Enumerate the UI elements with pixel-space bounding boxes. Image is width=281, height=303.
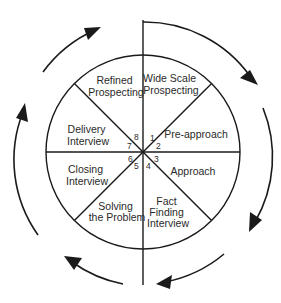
segment-8-label: Refined Prospecting xyxy=(88,74,144,98)
arrowhead-icon xyxy=(156,275,172,289)
arrowhead-icon xyxy=(64,256,82,270)
sales-cycle-diagram: Wide Scale Prospecting Pre-approach Appr… xyxy=(0,0,281,303)
arrowhead-icon xyxy=(249,212,262,232)
segment-7-label: Delivery Interview xyxy=(67,123,109,147)
segment-4-number: 4 xyxy=(146,161,151,171)
segment-4-label: Fact Finding Interview xyxy=(147,195,189,229)
segment-7-number: 7 xyxy=(127,141,132,151)
segment-1-number: 1 xyxy=(150,133,155,143)
arrowhead-icon xyxy=(16,103,28,122)
arrow-top-left xyxy=(43,27,101,72)
segment-5-number: 5 xyxy=(134,161,139,171)
segment-5-label: Solving the Problem xyxy=(89,200,146,223)
arrow-right xyxy=(249,108,273,232)
segment-8-number: 8 xyxy=(134,132,139,142)
segment-3-label: Approach xyxy=(171,165,216,177)
segment-2-number: 2 xyxy=(156,141,161,151)
arrow-left xyxy=(14,103,38,235)
segment-6-label: Closing Interview xyxy=(66,163,108,187)
segment-6-number: 6 xyxy=(128,154,133,164)
arrowhead-icon xyxy=(84,27,101,40)
wheel-svg: Wide Scale Prospecting Pre-approach Appr… xyxy=(0,0,281,303)
segment-1-label: Wide Scale Prospecting xyxy=(143,72,199,96)
segment-2-label: Pre-approach xyxy=(164,128,228,140)
arrow-bottom-left xyxy=(64,256,123,284)
arrow-bottom-right xyxy=(156,254,224,289)
arrowhead-icon xyxy=(240,70,258,85)
segment-3-number: 3 xyxy=(154,154,159,164)
